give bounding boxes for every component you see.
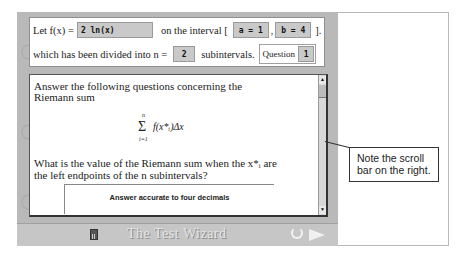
let-label: Let f(x) = xyxy=(33,25,74,36)
test-wizard-window: Let f(x) = 2 ln(x) on the interval [ a =… xyxy=(17,12,338,246)
callout-line-1: Note the scroll xyxy=(357,152,438,164)
question-number-field[interactable]: 1 xyxy=(298,46,314,62)
interval-close: ]. xyxy=(315,25,321,36)
question-line-1: What is the value of the Riemann sum whe… xyxy=(34,157,316,169)
answer-input-box[interactable]: Answer accurate to four decimals xyxy=(64,184,274,214)
question-text: What is the value of the Riemann sum whe… xyxy=(34,157,316,181)
vertical-scrollbar[interactable]: ▲ ▼ xyxy=(318,75,326,215)
function-row: Let f(x) = 2 ln(x) on the interval [ a =… xyxy=(33,21,321,39)
n-value-field[interactable]: 2 xyxy=(173,46,195,62)
sum-lower-limit: i=1 xyxy=(139,136,148,142)
answer-label: Answer accurate to four decimals xyxy=(65,193,274,202)
b-value-field[interactable]: b = 4 xyxy=(275,22,311,38)
riemann-sum-formula: n Σ i=1 f(x*ᵢ)Δx xyxy=(138,112,218,142)
question-content-panel: Answer the following questions concernin… xyxy=(29,74,328,217)
app-title: The Test Wizard xyxy=(127,226,227,242)
callout-line-2: bar on the right. xyxy=(357,164,438,176)
calculator-icon[interactable] xyxy=(90,229,98,240)
function-field[interactable]: 2 ln(x) xyxy=(77,22,153,38)
scroll-down-arrow-icon[interactable]: ▼ xyxy=(319,206,326,214)
subintervals-row: which has been divided into n = 2 subint… xyxy=(33,45,316,63)
problem-header: Let f(x) = 2 ln(x) on the interval [ a =… xyxy=(29,17,325,67)
question-selector[interactable]: Question 1 xyxy=(259,44,317,64)
scroll-thumb[interactable] xyxy=(319,85,326,98)
divided-label: which has been divided into n = xyxy=(33,49,167,60)
undo-icon[interactable] xyxy=(291,227,303,239)
sigma-symbol: Σ xyxy=(138,119,146,135)
a-value-field[interactable]: a = 1 xyxy=(233,22,269,38)
intro-text: Answer the following questions concernin… xyxy=(34,81,316,103)
interval-label: on the interval [ xyxy=(161,25,228,36)
intro-line-2: Riemann sum xyxy=(34,92,316,103)
comma-separator: , xyxy=(271,25,274,36)
subintervals-label: subintervals. xyxy=(201,49,254,60)
sum-expression: f(x*ᵢ)Δx xyxy=(153,121,184,132)
question-label: Question xyxy=(263,49,296,59)
annotation-callout: Note the scroll bar on the right. xyxy=(349,147,439,182)
question-line-2: the left endpoints of the n subintervals… xyxy=(34,169,316,181)
footer-bar: The Test Wizard xyxy=(17,223,338,246)
sum-upper-limit: n xyxy=(142,112,145,118)
scroll-up-arrow-icon[interactable]: ▲ xyxy=(319,76,326,84)
next-arrow-icon[interactable] xyxy=(309,229,325,241)
